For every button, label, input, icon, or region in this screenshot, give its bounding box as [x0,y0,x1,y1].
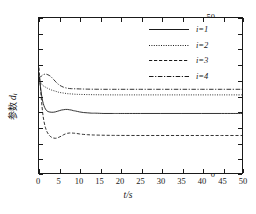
x-axis-tick-label: 10 [75,177,84,186]
y-axis-title-subscript: i [11,94,18,96]
legend-item-label: i=4 [196,72,208,81]
x-axis-tick [101,18,102,22]
x-axis-tick [162,169,163,173]
x-axis-tick [142,169,143,173]
y-axis-tick [238,34,242,35]
y-axis-tick [39,112,43,113]
x-axis-tick-label: 20 [116,177,125,186]
legend-item-label: i=1 [196,25,208,34]
x-axis-tick [60,169,61,173]
x-axis-tick [183,169,184,173]
legend-line-dashdot-icon [149,72,189,81]
y-axis-tick [238,49,242,50]
x-axis-tick-label: 40 [198,177,207,186]
y-axis-tick [39,49,43,50]
y-axis-tick [39,159,43,160]
x-axis-tick [142,18,143,22]
chart-figure: 05101520253035404550 0510152025303540455… [0,0,256,214]
x-axis-tick [80,18,81,22]
y-axis-title-symbol: d [8,95,18,100]
chart-legend: i=1 i=2 i=3 i=4 [149,25,235,81]
x-axis-tick-label: 5 [56,177,60,186]
x-axis-tick-label: 25 [136,177,145,186]
x-axis-tick-label: 45 [218,177,227,186]
y-axis-title-cn: 参数 [8,102,18,120]
legend-item: i=1 [149,25,235,34]
y-axis-tick [238,159,242,160]
y-axis-tick [39,81,43,82]
x-axis-tick [121,169,122,173]
legend-item: i=3 [149,56,235,65]
y-axis-tick [238,144,242,145]
x-axis-tick [224,169,225,173]
y-axis-tick [39,34,43,35]
y-axis-tick [238,112,242,113]
x-axis-tick [121,18,122,22]
x-axis-tick [101,169,102,173]
y-axis-tick [39,144,43,145]
legend-line-solid-icon [149,25,189,34]
y-axis-tick [238,81,242,82]
y-axis-tick [238,18,242,19]
x-axis-tick-label: 50 [239,177,248,186]
x-axis-tick-label: 30 [157,177,166,186]
x-axis-tick [80,169,81,173]
x-axis-tick [243,18,244,22]
legend-item-label: i=3 [196,56,208,65]
x-axis-tick-label: 15 [95,177,104,186]
x-axis-tick [203,169,204,173]
y-axis-tick [238,128,242,129]
x-axis-tick [39,169,40,173]
y-axis-tick [238,174,242,175]
y-axis-tick [39,174,43,175]
x-axis-tick [39,18,40,22]
legend-line-dotted-icon [149,41,189,50]
legend-item: i=4 [149,72,235,81]
x-axis-tick [60,18,61,22]
y-axis-tick [238,65,242,66]
series-line-i-1 [39,75,242,113]
x-axis-title: t/s [0,190,256,200]
y-axis-tick [238,97,242,98]
y-axis-tick [39,65,43,66]
x-axis-tick-label: 0 [36,177,40,186]
y-axis-tick [39,97,43,98]
x-axis-tick [243,169,244,173]
x-axis-tick-label: 35 [177,177,186,186]
x-axis-tick [224,18,225,22]
legend-item: i=2 [149,41,235,50]
x-axis-tick [162,18,163,22]
x-axis-tick [183,18,184,22]
y-axis-tick [39,128,43,129]
x-axis-tick [203,18,204,22]
y-axis-title: 参数 di [6,71,19,143]
plot-area: i=1 i=2 i=3 i=4 [38,17,243,174]
legend-item-label: i=2 [196,41,208,50]
legend-line-dashed-icon [149,56,189,65]
